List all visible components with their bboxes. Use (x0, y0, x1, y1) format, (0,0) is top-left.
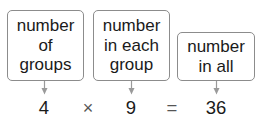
factor-number-in-each-group: 9 (116, 97, 146, 119)
factor-number-of-groups: 4 (29, 97, 59, 119)
label-line: number (103, 16, 161, 36)
arrow-down-icon (212, 81, 221, 95)
equals-sign: = (157, 97, 187, 119)
label-box-number-of-groups: number of groups (7, 10, 84, 81)
product-number-in-all: 36 (201, 97, 231, 119)
label-box-number-in-each-group: number in each group (93, 10, 170, 81)
arrow-down-icon (127, 81, 136, 95)
label-line: in all (199, 57, 234, 77)
multiplication-sign: × (73, 97, 103, 119)
label-line: groups (20, 55, 72, 75)
label-line: group (110, 55, 153, 75)
label-box-number-in-all: number in all (177, 32, 255, 81)
label-line: in each (104, 36, 159, 56)
arrow-down-icon (40, 81, 49, 95)
label-line: of (38, 36, 52, 56)
label-line: number (187, 37, 245, 57)
label-line: number (17, 16, 75, 36)
